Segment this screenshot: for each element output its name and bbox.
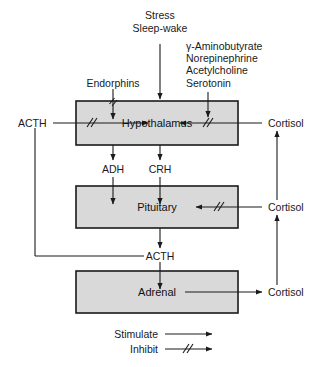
cortisol-hypothalamus-label: Cortisol	[268, 117, 304, 129]
adrenal-label: Adrenal	[138, 286, 176, 298]
neurotransmitter-serotonin-label: Serotonin	[186, 77, 262, 89]
acth-output-label: ACTH	[146, 250, 175, 262]
stress-label: Stress	[145, 9, 175, 21]
acth-feedback-label: ACTH	[18, 117, 47, 129]
hypothalamus-label: Hypothalamus	[122, 117, 192, 129]
legend-inhibit-label: Inhibit	[130, 343, 158, 355]
diagram-lines	[0, 0, 320, 367]
cortisol-adrenal-label: Cortisol	[268, 286, 304, 298]
neurotransmitter-gaba-label: γ-Aminobutyrate	[186, 40, 262, 52]
neurotransmitter-norepinephrine-label: Norepinephrine	[186, 52, 262, 64]
crh-label: CRH	[149, 163, 172, 175]
adh-label: ADH	[102, 163, 124, 175]
cortisol-pituitary-label: Cortisol	[268, 201, 304, 213]
neurotransmitter-acetylcholine-label: Acetylcholine	[186, 64, 262, 76]
sleep-wake-label: Sleep-wake	[133, 22, 188, 34]
endorphins-label: Endorphins	[86, 77, 139, 89]
hpa-axis-diagram: Stress Sleep-wake γ-Aminobutyrate Norepi…	[0, 0, 320, 367]
pituitary-label: Pituitary	[137, 201, 177, 213]
legend-stimulate-label: Stimulate	[114, 328, 158, 340]
